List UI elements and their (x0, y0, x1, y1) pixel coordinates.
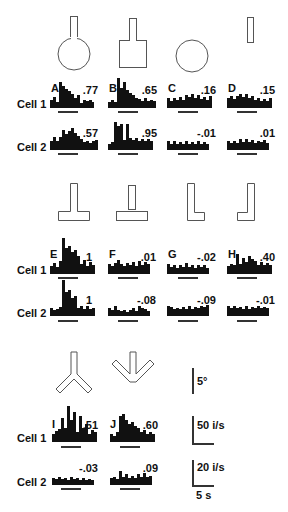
stimulus-l-icon (184, 182, 208, 222)
stimulus-bar-i2 (61, 488, 81, 490)
panel-label-g: G (168, 248, 177, 260)
stimulus-inverted-t-icon (56, 182, 92, 222)
histogram-a-cell1 (50, 82, 98, 108)
histogram-e-cell1 (50, 238, 98, 274)
histogram-c-cell1 (167, 92, 215, 108)
row-label-cell1: Cell 1 (17, 98, 46, 110)
stimulus-bar-a1 (58, 111, 78, 113)
stimulus-circle-with-stem-icon (56, 14, 92, 74)
row-label-cell2: Cell 2 (17, 141, 46, 153)
stimulus-bar-f1 (118, 277, 138, 279)
scale-bar-rate-cell1-vertical (192, 416, 194, 444)
row-label-cell1-r3: Cell 1 (17, 432, 46, 444)
histogram-f-cell2 (108, 305, 156, 316)
scale-bar-time (192, 485, 214, 487)
stimulus-bar-c1 (178, 111, 198, 113)
scale-label-rate-cell1: 50 i/s (197, 419, 225, 431)
stimulus-bar-d1 (237, 111, 257, 113)
histogram-g-cell2 (167, 303, 215, 316)
row-label-cell2-r2: Cell 2 (17, 307, 46, 319)
stimulus-y-icon (52, 350, 96, 402)
histogram-h-cell1 (227, 252, 275, 274)
histogram-j-cell2 (110, 470, 158, 485)
histogram-a-cell2 (50, 126, 98, 150)
histogram-f-cell1 (108, 258, 156, 274)
stimulus-bar-d2 (237, 153, 257, 155)
stimulus-bar-b1 (118, 111, 138, 113)
stimulus-circle-icon (174, 38, 210, 74)
histogram-d-cell1 (227, 92, 275, 108)
stimulus-bar-e1 (58, 277, 78, 279)
stimulus-mirrored-l-icon (234, 182, 258, 222)
stimulus-bar-j1 (120, 446, 140, 448)
histogram-b-cell1 (108, 78, 156, 108)
stimulus-bar-c2 (178, 153, 198, 155)
stimulus-square-with-stem-icon (116, 14, 152, 74)
stimulus-separated-t-icon (114, 184, 150, 224)
stimulus-bar-i1 (61, 446, 81, 448)
stimulus-bar-g2 (178, 320, 198, 322)
row-label-cell2-r3: Cell 2 (17, 476, 46, 488)
stimulus-bar-g1 (178, 277, 198, 279)
stimulus-bar-f2 (118, 320, 138, 322)
histogram-h-cell2 (227, 303, 275, 316)
histogram-j-cell1 (110, 412, 158, 442)
value-i-cell2: -.03 (68, 462, 98, 474)
stimulus-bar-a2 (58, 153, 78, 155)
histogram-e-cell2 (50, 280, 98, 316)
row-label-cell1-r2: Cell 1 (17, 264, 46, 276)
stimulus-bar-b2 (118, 153, 138, 155)
histogram-d-cell2 (227, 138, 275, 150)
stimulus-arrow-down-icon (108, 350, 158, 386)
scale-bar-rate-cell2-vertical (192, 460, 194, 486)
histogram-i-cell1 (52, 406, 100, 442)
scale-label-time: 5 s (196, 489, 211, 501)
stimulus-bar-icon (244, 16, 256, 46)
histogram-g-cell1 (167, 262, 215, 274)
scale-label-angle: 5° (197, 375, 208, 387)
stimulus-bar-h2 (237, 320, 257, 322)
stimulus-bar-h1 (237, 277, 257, 279)
histogram-c-cell2 (167, 138, 215, 150)
stimulus-bar-j2 (120, 488, 140, 490)
scale-bar-rate-cell1-horizontal (192, 443, 214, 445)
scale-label-rate-cell2: 20 i/s (197, 461, 225, 473)
scale-bar-angle (192, 368, 194, 394)
histogram-i-cell2 (52, 475, 100, 485)
histogram-b-cell2 (108, 118, 156, 150)
stimulus-bar-e2 (58, 320, 78, 322)
